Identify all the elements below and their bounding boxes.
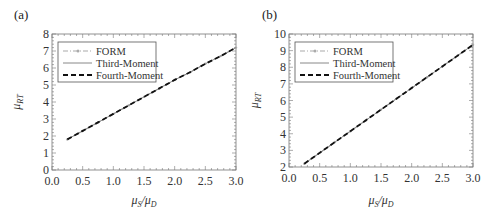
x-tick-label: 2.5 xyxy=(435,171,450,185)
legend: FORMThird-MomentFourth-Moment xyxy=(295,42,400,82)
x-tick-label: 0.5 xyxy=(75,174,90,188)
legend-label: FORM xyxy=(333,46,363,57)
x-axis-title: μS/μD xyxy=(130,193,156,209)
x-tick-label: 3.0 xyxy=(229,174,244,188)
x-tick-label: 1.5 xyxy=(374,171,389,185)
legend-label: Third-Moment xyxy=(333,58,395,69)
y-tick-label: 5 xyxy=(280,110,286,124)
x-tick-label: 1.0 xyxy=(343,171,358,185)
y-tick-label: 8 xyxy=(280,60,286,74)
y-tick-label: 6 xyxy=(280,94,286,108)
x-tick-label: 1.0 xyxy=(106,174,121,188)
legend-label: FORM xyxy=(96,46,126,57)
y-tick-label: 8 xyxy=(43,27,49,41)
x-tick-label: 3.0 xyxy=(466,171,481,185)
y-axis-title: μRT xyxy=(247,92,263,109)
y-tick-label: 10 xyxy=(274,27,286,41)
y-tick-label: 3 xyxy=(43,112,49,126)
x-tick-label: 2.5 xyxy=(198,174,213,188)
x-axis-title: μS/μD xyxy=(367,193,393,209)
y-tick-label: 1 xyxy=(43,146,49,160)
x-tick-label: 2.0 xyxy=(404,171,419,185)
y-tick-label: 3 xyxy=(280,143,286,157)
y-tick-label: 2 xyxy=(280,160,286,174)
y-tick-label: 7 xyxy=(43,44,49,58)
y-tick-label: 7 xyxy=(280,77,286,91)
legend-label: Third-Moment xyxy=(96,58,158,69)
y-axis-title: μRT xyxy=(9,94,25,111)
y-tick-label: 5 xyxy=(43,78,49,92)
y-tick-label: 6 xyxy=(43,61,49,75)
legend-label: Fourth-Moment xyxy=(96,70,163,81)
legend: FORMThird-MomentFourth-Moment xyxy=(58,42,163,82)
y-tick-label: 0 xyxy=(43,163,49,177)
chart-b: 0.00.51.01.52.02.53.02345678910μS/μDμRTF… xyxy=(247,27,481,209)
x-tick-label: 1.5 xyxy=(137,174,152,188)
figure-canvas: 0.00.51.01.52.02.53.0012345678μS/μDμRTFO… xyxy=(0,0,495,214)
x-tick-label: 0.5 xyxy=(312,171,327,185)
chart-a: 0.00.51.01.52.02.53.0012345678μS/μDμRTFO… xyxy=(9,27,244,209)
legend-label: Fourth-Moment xyxy=(333,70,400,81)
y-tick-label: 2 xyxy=(43,129,49,143)
y-tick-label: 4 xyxy=(43,95,49,109)
x-tick-label: 2.0 xyxy=(167,174,182,188)
y-tick-label: 9 xyxy=(280,44,286,58)
y-tick-label: 4 xyxy=(280,127,286,141)
